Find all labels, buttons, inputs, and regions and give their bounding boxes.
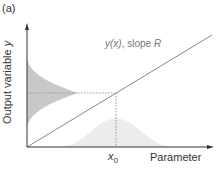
y-axis-arrow-icon (25, 23, 29, 30)
diagram-canvas (0, 0, 224, 174)
x0-label: x0 (108, 150, 118, 165)
y-axis-label: Output variable y (1, 44, 13, 124)
y-axis-label-var: y (1, 41, 13, 47)
line-label-slope: R (154, 38, 161, 49)
x-axis-label: Parameter (150, 151, 201, 163)
y-axis-label-text: Output variable (1, 46, 13, 124)
x-axis-arrow-icon (207, 145, 214, 149)
x0-sub: 0 (114, 156, 118, 165)
line-label-func: y(x) (105, 38, 122, 49)
line-label-sep: , slope (122, 38, 154, 49)
line-label: y(x), slope R (105, 38, 161, 49)
input-distribution (62, 118, 172, 147)
